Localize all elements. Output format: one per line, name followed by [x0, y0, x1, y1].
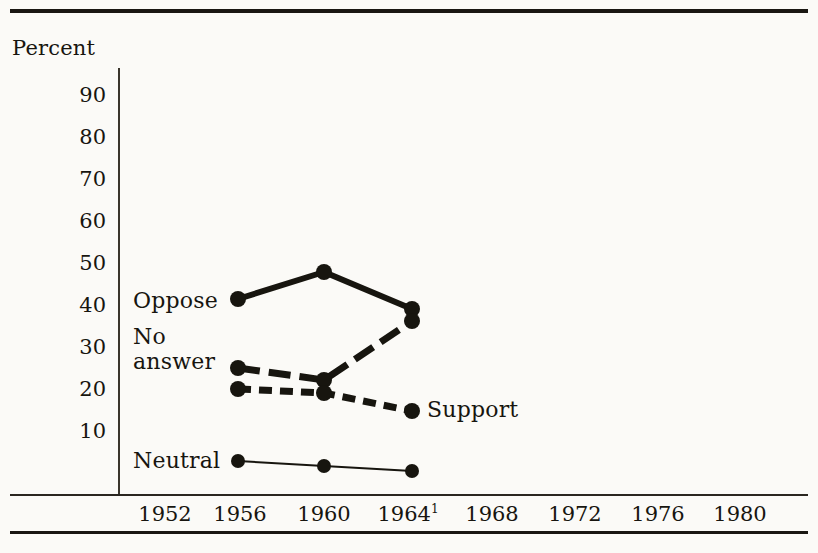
series-no-answer: [230, 313, 420, 388]
figure-bottom-rule: [10, 531, 808, 534]
series-oppose-point: [230, 291, 246, 307]
series-neutral-point: [231, 454, 245, 468]
x-tick-1952: 1952: [125, 503, 205, 525]
x-tick-1964-footnote-marker: 1: [431, 502, 439, 516]
series-label-neutral: Neutral: [133, 448, 220, 473]
series-label-no-answer-line2: answer: [133, 349, 215, 374]
x-tick-1972: 1972: [535, 503, 615, 525]
chart-figure: Percent 90 80 70 60 50 40 30 20 10: [0, 0, 818, 553]
x-tick-1976: 1976: [618, 503, 698, 525]
series-support: [230, 381, 420, 419]
x-tick-1956: 1956: [200, 503, 280, 525]
series-neutral-point: [317, 459, 331, 473]
series-label-no-answer: Noanswer: [133, 324, 215, 374]
series-support-point: [404, 403, 420, 419]
series-no-answer-point: [404, 313, 420, 329]
series-label-support: Support: [427, 397, 518, 422]
series-support-point: [230, 381, 246, 397]
x-tick-1960: 1960: [284, 503, 364, 525]
series-label-no-answer-line1: No: [133, 324, 166, 349]
series-oppose-point: [316, 264, 332, 280]
series-no-answer-point: [230, 360, 246, 376]
series-label-oppose: Oppose: [133, 288, 218, 313]
x-tick-1964-text: 1964: [377, 502, 430, 526]
series-oppose: [230, 264, 420, 317]
plot-area: [0, 0, 818, 553]
x-tick-1968: 1968: [452, 503, 532, 525]
x-axis-rule: [10, 494, 808, 496]
x-tick-1964: 19641: [368, 503, 448, 525]
series-neutral-point: [405, 464, 419, 478]
x-tick-1980: 1980: [700, 503, 780, 525]
series-support-point: [316, 385, 332, 401]
series-no-answer-line: [238, 321, 412, 380]
series-neutral: [231, 454, 419, 478]
